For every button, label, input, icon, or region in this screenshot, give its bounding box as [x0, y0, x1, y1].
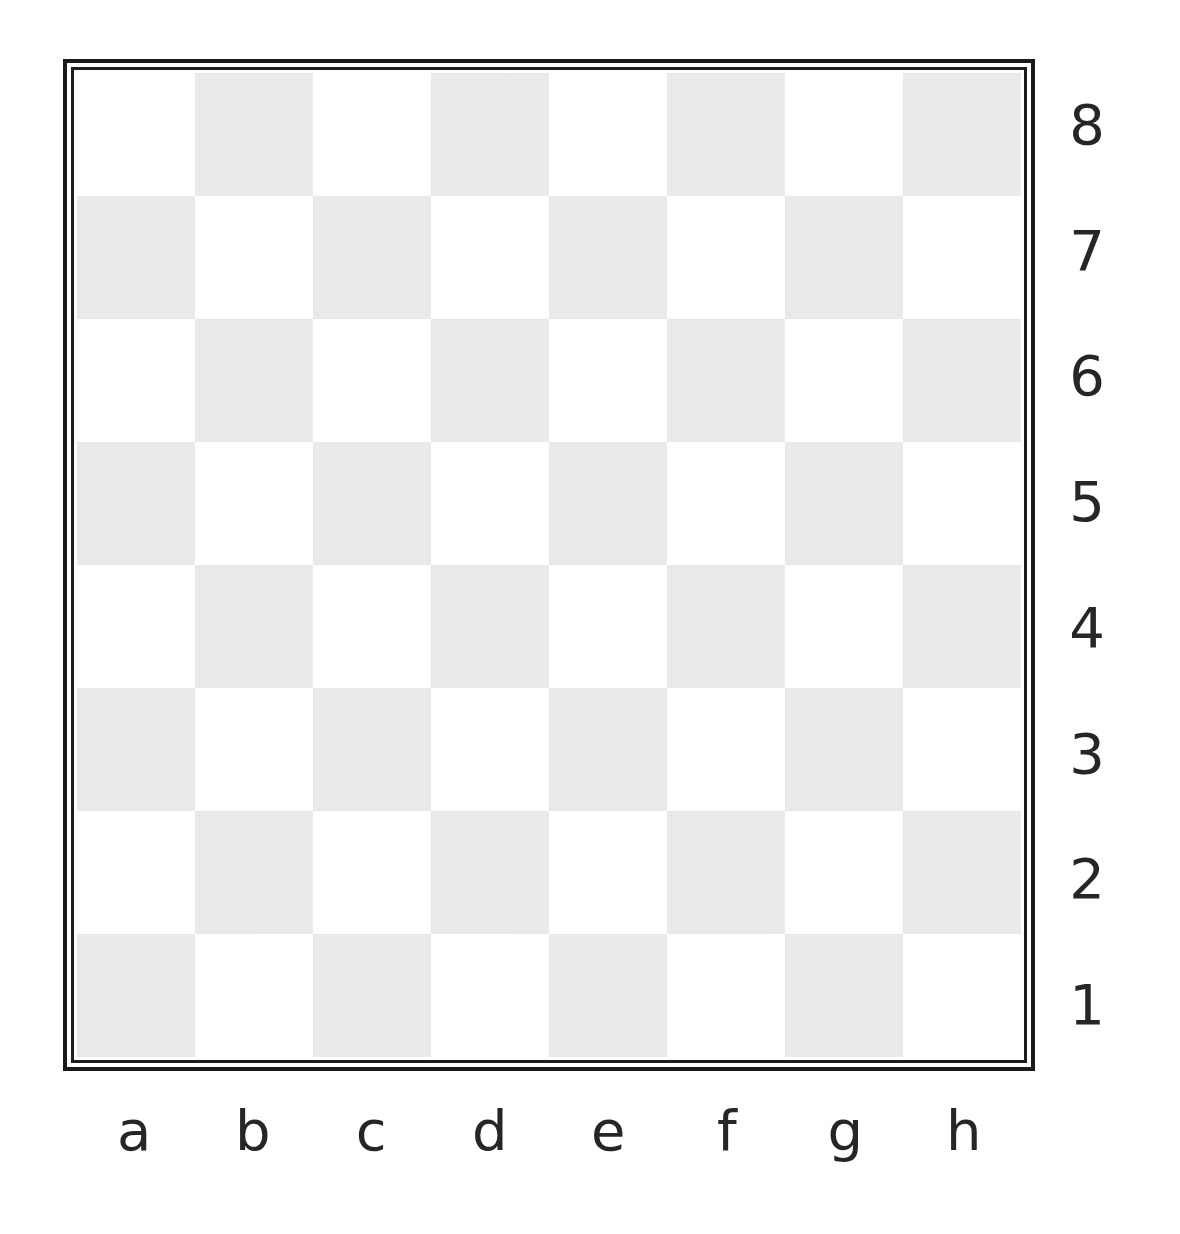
chessboard-grid[interactable]: [77, 73, 1021, 1057]
board-square-g6[interactable]: [785, 319, 903, 442]
rank-label-column: 87654321: [1058, 62, 1116, 1068]
board-square-e3[interactable]: [549, 688, 667, 811]
board-square-a3[interactable]: [77, 688, 195, 811]
board-square-b8[interactable]: [195, 73, 313, 196]
board-square-e2[interactable]: [549, 811, 667, 934]
board-square-e7[interactable]: [549, 196, 667, 319]
board-square-a8[interactable]: [77, 73, 195, 196]
file-label-g: g: [786, 1086, 905, 1176]
board-square-c5[interactable]: [313, 442, 431, 565]
rank-label-1: 1: [1058, 942, 1116, 1068]
board-square-e4[interactable]: [549, 565, 667, 688]
board-square-g8[interactable]: [785, 73, 903, 196]
board-square-c7[interactable]: [313, 196, 431, 319]
board-square-c3[interactable]: [313, 688, 431, 811]
board-square-h1[interactable]: [903, 934, 1021, 1057]
board-square-f4[interactable]: [667, 565, 785, 688]
board-square-c6[interactable]: [313, 319, 431, 442]
board-square-g1[interactable]: [785, 934, 903, 1057]
board-square-h7[interactable]: [903, 196, 1021, 319]
board-square-h8[interactable]: [903, 73, 1021, 196]
file-label-b: b: [194, 1086, 313, 1176]
board-square-f6[interactable]: [667, 319, 785, 442]
board-square-f2[interactable]: [667, 811, 785, 934]
board-square-e6[interactable]: [549, 319, 667, 442]
board-square-h3[interactable]: [903, 688, 1021, 811]
board-square-c1[interactable]: [313, 934, 431, 1057]
file-label-h: h: [905, 1086, 1024, 1176]
board-square-g2[interactable]: [785, 811, 903, 934]
board-square-d7[interactable]: [431, 196, 549, 319]
board-square-b5[interactable]: [195, 442, 313, 565]
board-square-b4[interactable]: [195, 565, 313, 688]
board-square-c8[interactable]: [313, 73, 431, 196]
board-square-h5[interactable]: [903, 442, 1021, 565]
board-square-f1[interactable]: [667, 934, 785, 1057]
rank-label-7: 7: [1058, 188, 1116, 314]
board-square-f8[interactable]: [667, 73, 785, 196]
board-square-d4[interactable]: [431, 565, 549, 688]
board-square-c4[interactable]: [313, 565, 431, 688]
board-outer-border: [63, 59, 1035, 1071]
board-square-g5[interactable]: [785, 442, 903, 565]
file-label-d: d: [431, 1086, 550, 1176]
board-square-b3[interactable]: [195, 688, 313, 811]
board-square-d2[interactable]: [431, 811, 549, 934]
file-label-c: c: [312, 1086, 431, 1176]
file-label-f: f: [668, 1086, 787, 1176]
board-square-a6[interactable]: [77, 319, 195, 442]
board-square-h4[interactable]: [903, 565, 1021, 688]
board-square-a7[interactable]: [77, 196, 195, 319]
board-square-f5[interactable]: [667, 442, 785, 565]
board-square-d3[interactable]: [431, 688, 549, 811]
board-square-a5[interactable]: [77, 442, 195, 565]
board-square-e1[interactable]: [549, 934, 667, 1057]
board-square-d6[interactable]: [431, 319, 549, 442]
file-label-a: a: [75, 1086, 194, 1176]
board-square-b6[interactable]: [195, 319, 313, 442]
file-label-e: e: [549, 1086, 668, 1176]
board-square-g7[interactable]: [785, 196, 903, 319]
chessboard-figure: 87654321 abcdefgh: [0, 0, 1180, 1234]
board-square-f7[interactable]: [667, 196, 785, 319]
board-inner-border: [71, 67, 1027, 1063]
rank-label-2: 2: [1058, 817, 1116, 943]
board-square-h6[interactable]: [903, 319, 1021, 442]
board-square-d5[interactable]: [431, 442, 549, 565]
board-square-f3[interactable]: [667, 688, 785, 811]
rank-label-5: 5: [1058, 439, 1116, 565]
board-square-g4[interactable]: [785, 565, 903, 688]
board-square-e8[interactable]: [549, 73, 667, 196]
board-square-d8[interactable]: [431, 73, 549, 196]
rank-label-6: 6: [1058, 314, 1116, 440]
file-label-row: abcdefgh: [75, 1086, 1023, 1176]
board-square-g3[interactable]: [785, 688, 903, 811]
board-square-a1[interactable]: [77, 934, 195, 1057]
rank-label-8: 8: [1058, 62, 1116, 188]
board-square-b7[interactable]: [195, 196, 313, 319]
board-square-a4[interactable]: [77, 565, 195, 688]
board-square-h2[interactable]: [903, 811, 1021, 934]
board-square-b1[interactable]: [195, 934, 313, 1057]
board-square-c2[interactable]: [313, 811, 431, 934]
board-square-a2[interactable]: [77, 811, 195, 934]
board-square-d1[interactable]: [431, 934, 549, 1057]
rank-label-3: 3: [1058, 691, 1116, 817]
board-square-e5[interactable]: [549, 442, 667, 565]
board-square-b2[interactable]: [195, 811, 313, 934]
rank-label-4: 4: [1058, 565, 1116, 691]
